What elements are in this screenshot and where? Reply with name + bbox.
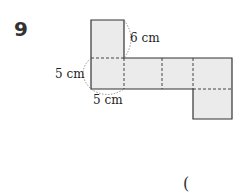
net-diagram: 6 cm 5 cm 5 cm <box>0 0 248 196</box>
label-5cm-bottom: 5 cm <box>93 93 123 107</box>
label-5cm-left: 5 cm <box>55 67 85 81</box>
label-6cm: 6 cm <box>130 31 160 45</box>
answer-paren: ( <box>183 174 189 193</box>
